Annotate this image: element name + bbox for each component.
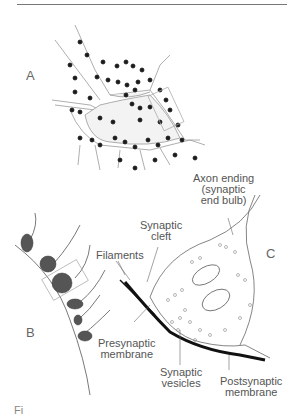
panel-label-a: A [26,68,35,83]
panel-label-b: B [26,325,35,340]
label-presynaptic-membrane: Presynaptic membrane [98,338,155,360]
panel-label-c: C [266,246,275,261]
mitochondria-c [189,261,233,316]
figure-caption: Fi [14,404,23,416]
neuron-cell-body-a [52,25,205,170]
label-postsynaptic-membrane: Postsynaptic membrane [220,376,282,398]
label-synaptic-cleft: Synaptic cleft [140,220,182,242]
label-synaptic-vesicles: Synaptic vesicles [160,367,202,389]
synaptic-vesicles-c [167,244,252,342]
label-filaments: Filaments [96,250,144,261]
label-axon-ending: Axon ending (synaptic end bulb) [193,173,254,206]
